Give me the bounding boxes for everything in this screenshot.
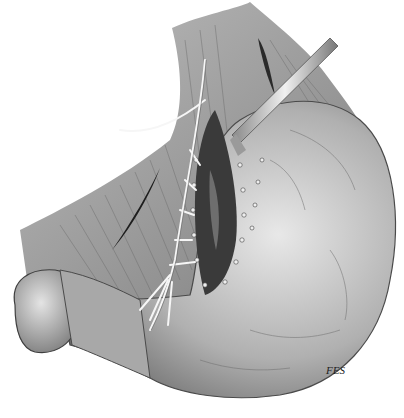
artist-signature: FES [326,364,345,376]
surgical-illustration [0,0,404,418]
